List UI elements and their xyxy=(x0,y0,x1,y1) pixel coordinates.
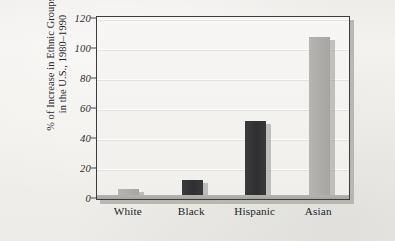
bar-slot-asian xyxy=(309,17,330,199)
y-axis-tick-60: 60 xyxy=(80,103,91,114)
plot-area xyxy=(96,16,350,200)
y-axis-tick-120: 120 xyxy=(75,13,92,24)
y-axis-tick-80: 80 xyxy=(80,73,91,84)
x-axis-label-black: Black xyxy=(178,205,205,217)
y-axis-tick-labels: 020406080100120 xyxy=(56,0,95,241)
x-axis-label-white: White xyxy=(114,205,142,217)
x-axis-label-hispanic: Hispanic xyxy=(234,205,275,217)
y-axis-tickmark-60 xyxy=(91,108,96,109)
x-axis-label-asian: Asian xyxy=(305,205,332,217)
bar-slot-black xyxy=(182,17,203,199)
y-axis-tick-100: 100 xyxy=(75,43,92,54)
baseline-plinth xyxy=(97,195,349,199)
y-axis-tickmark-120 xyxy=(91,18,96,19)
y-axis-tickmark-100 xyxy=(91,48,96,49)
y-axis-tickmark-40 xyxy=(91,138,96,139)
bar-slot-hispanic xyxy=(245,17,266,199)
bar-asian xyxy=(309,37,330,199)
y-axis-tickmark-0 xyxy=(91,198,96,199)
bar-hispanic xyxy=(245,121,266,199)
x-axis-category-labels: WhiteBlackHispanicAsian xyxy=(96,205,350,227)
bar-slot-white xyxy=(118,17,139,199)
y-axis-tick-20: 20 xyxy=(80,163,91,174)
y-axis-tick-40: 40 xyxy=(80,133,91,144)
bar-series xyxy=(97,17,349,199)
y-axis-tickmark-20 xyxy=(91,168,96,169)
y-axis-tickmark-80 xyxy=(91,78,96,79)
